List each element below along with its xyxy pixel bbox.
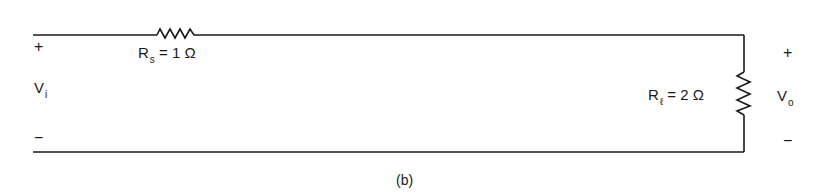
load-resistor-label: Rℓ = 2 Ω [648,87,704,102]
input-voltage-label: Vi [34,80,47,95]
load-resistor-subscript: ℓ [660,96,663,107]
series-resistor-zigzag [157,29,199,38]
series-resistor-label: Rs = 1 Ω [138,45,196,60]
input-voltage-symbol: V [34,79,44,96]
input-minus-sign: − [34,130,43,146]
load-resistor-symbol: R [648,86,659,103]
load-resistor-value: = 2 Ω [667,86,704,103]
output-minus-sign: − [783,133,792,149]
output-voltage-label: Vo [777,88,794,103]
series-resistor-value: = 1 Ω [159,44,196,61]
input-plus-sign: + [34,39,43,55]
load-resistor-zigzag [737,72,750,115]
output-plus-sign: + [783,45,792,61]
series-resistor-symbol: R [138,44,149,61]
output-voltage-subscript: o [788,97,794,108]
figure-caption: (b) [396,173,413,187]
input-voltage-subscript: i [45,89,47,100]
series-resistor-subscript: s [150,54,155,65]
output-voltage-symbol: V [777,87,787,104]
